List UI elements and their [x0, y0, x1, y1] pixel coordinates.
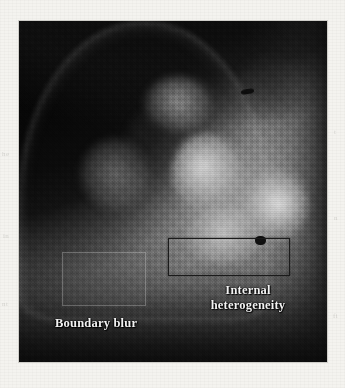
ghost-text-left-2: in — [3, 232, 9, 240]
annotation-label-internal-line2: heterogeneity — [211, 298, 286, 312]
scan-image-panel: Boundary blur Internal heterogeneity — [19, 21, 327, 362]
annotation-label-internal-line1: Internal — [225, 283, 270, 297]
ghost-text-right-1: t — [334, 128, 336, 136]
annotation-label-boundary-blur: Boundary blur — [55, 316, 137, 331]
roi-box-boundary-blur[interactable] — [62, 252, 146, 306]
figure-page: he in nt t n fi Boundary blur Int — [0, 0, 345, 388]
ghost-text-left-3: nt — [2, 300, 8, 308]
ghost-text-right-3: fi — [333, 312, 338, 320]
roi-box-internal-heterogeneity[interactable] — [168, 238, 290, 276]
ghost-text-right-2: n — [334, 214, 338, 222]
annotation-label-internal-heterogeneity: Internal heterogeneity — [196, 283, 300, 312]
ghost-text-left-1: he — [2, 150, 9, 158]
